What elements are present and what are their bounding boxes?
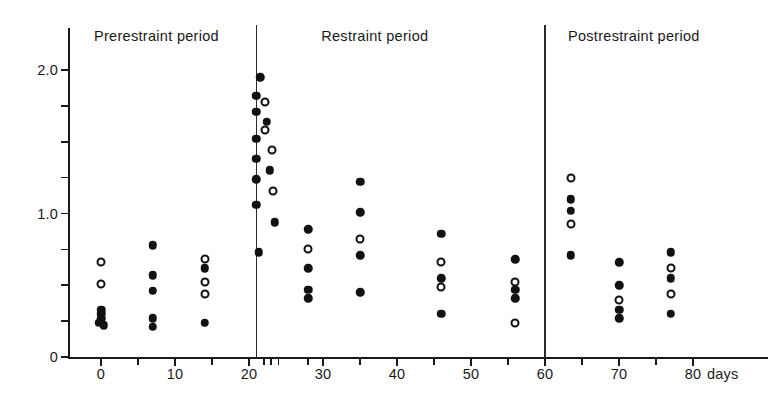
data-point-open — [269, 186, 278, 195]
period-title: Restraint period — [321, 28, 428, 44]
data-point-filled — [304, 225, 313, 234]
data-point-filled — [667, 248, 676, 257]
data-point-filled — [615, 258, 624, 267]
y-axis-line — [68, 28, 70, 358]
period-title: Postrestraint period — [568, 28, 700, 44]
data-point-filled — [252, 135, 261, 144]
data-point-filled — [304, 264, 313, 273]
data-point-filled — [149, 314, 158, 323]
data-point-filled — [615, 314, 624, 323]
x-tick-label: 0 — [97, 366, 105, 382]
data-point-filled — [567, 195, 576, 204]
data-point-filled — [567, 206, 576, 215]
data-point-filled — [252, 155, 261, 164]
data-point-filled — [271, 218, 280, 227]
x-tick-label: 80 — [685, 366, 702, 382]
x-tick — [174, 358, 176, 366]
x-tick — [692, 358, 694, 366]
x-tick-label: 50 — [463, 366, 480, 382]
x-axis-line — [68, 357, 768, 359]
data-point-open — [97, 258, 106, 267]
data-point-open — [437, 258, 446, 267]
data-point-filled — [567, 251, 576, 260]
y-tick — [61, 320, 68, 322]
data-point-open — [261, 126, 270, 135]
data-point-open — [97, 279, 106, 288]
y-tick-label: 1.0 — [37, 206, 58, 222]
data-point-filled — [149, 241, 158, 250]
data-point-filled — [304, 285, 313, 294]
data-point-open — [200, 289, 209, 298]
x-tick — [263, 358, 265, 365]
x-axis-unit-label: days — [707, 366, 738, 382]
chart-canvas: 01.02.0 01020304050607080days Prerestrai… — [0, 0, 784, 412]
data-point-filled — [252, 201, 261, 210]
data-point-filled — [615, 305, 624, 314]
x-tick — [278, 358, 280, 365]
data-point-filled — [265, 166, 274, 175]
y-tick — [61, 213, 68, 215]
x-tick — [137, 358, 139, 365]
x-tick — [396, 358, 398, 366]
data-point-filled — [149, 271, 158, 280]
data-point-filled — [252, 92, 261, 101]
x-tick — [433, 358, 435, 365]
data-point-filled — [149, 287, 158, 296]
x-tick — [322, 358, 324, 366]
data-point-filled — [667, 274, 676, 283]
x-tick — [307, 358, 309, 365]
data-point-open — [304, 245, 313, 254]
data-point-filled — [437, 310, 446, 319]
data-point-filled — [200, 318, 209, 327]
x-tick — [359, 358, 361, 365]
data-point-open — [566, 219, 575, 228]
x-tick — [248, 358, 250, 366]
data-point-open — [666, 264, 675, 273]
data-point-open — [437, 282, 446, 291]
data-point-open — [200, 255, 209, 264]
data-point-filled — [256, 73, 265, 82]
y-tick — [61, 141, 68, 143]
x-tick — [507, 358, 509, 365]
data-point-filled — [356, 288, 365, 297]
x-tick — [618, 358, 620, 366]
y-tick — [61, 177, 68, 179]
data-point-filled — [667, 310, 676, 319]
data-point-filled — [511, 294, 520, 303]
data-point-open — [356, 235, 365, 244]
x-tick — [581, 358, 583, 365]
data-point-filled — [356, 178, 365, 187]
data-point-filled — [304, 294, 313, 303]
y-tick — [61, 249, 68, 251]
data-point-filled — [254, 248, 263, 257]
data-point-open — [511, 318, 520, 327]
data-point-filled — [356, 251, 365, 260]
x-tick — [270, 358, 272, 365]
y-tick-label: 2.0 — [37, 62, 58, 78]
x-tick-label: 20 — [241, 366, 258, 382]
data-point-open — [200, 278, 209, 287]
data-point-filled — [615, 281, 624, 290]
period-divider — [544, 25, 546, 358]
y-tick — [61, 284, 68, 286]
data-point-open — [267, 146, 276, 155]
x-tick-label: 60 — [537, 366, 554, 382]
x-tick-label: 10 — [167, 366, 184, 382]
data-point-filled — [437, 229, 446, 238]
x-tick — [100, 358, 102, 366]
data-point-filled — [252, 107, 261, 116]
data-point-filled — [252, 175, 261, 184]
data-point-filled — [356, 208, 365, 217]
data-point-filled — [511, 255, 520, 264]
data-point-open — [615, 295, 624, 304]
data-point-open — [511, 278, 520, 287]
data-point-filled — [437, 274, 446, 283]
data-point-filled — [149, 323, 158, 332]
x-tick — [211, 358, 213, 365]
x-tick — [470, 358, 472, 366]
y-tick — [61, 105, 68, 107]
data-point-open — [261, 97, 270, 106]
y-tick — [61, 69, 68, 71]
data-point-filled — [263, 117, 272, 126]
data-point-open — [566, 173, 575, 182]
